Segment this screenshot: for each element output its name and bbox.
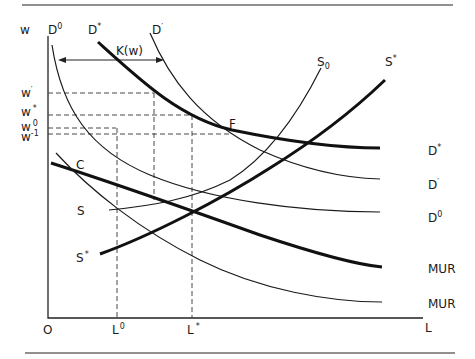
x-axis-label: L [425,321,432,335]
svg-text:w-1: w-1 [21,129,39,144]
dprime-curve [150,33,380,179]
svg-text:w*: w* [21,104,37,119]
s0-top-label: S0 [317,55,330,71]
sstar-top-label: S* [385,54,397,69]
point-c-label: C [76,158,84,172]
s-left-label: S [77,204,85,218]
svg-text:w′: w′ [21,86,33,100]
dstar-top-label: D* [88,22,101,37]
d0-right-label: D0 [428,210,442,225]
dstar-right-label: D* [428,143,441,158]
mur-thin-label: MUR [428,297,455,311]
point-f-label: F [229,117,236,131]
svg-text:L*: L* [187,322,200,337]
svg-text:L0: L0 [112,322,125,337]
dprime-top-label: D′ [152,23,163,37]
origin-label: O [43,323,52,337]
labor-labels: L0 L* [112,322,200,337]
mur-thin-curve [56,153,382,302]
k-arrow [58,57,164,63]
y-axis-label: w [20,23,30,37]
wage-labels: w′ w* w0 w-1 [21,86,39,144]
labor-market-diagram: w L O w′ w* w0 w-1 L0 L* K(w) F C D0 D* … [0,0,475,359]
dprime-right-label: D′ [428,178,439,192]
d0-top-label: D0 [48,22,62,37]
sstar-left-label: S* [76,250,89,265]
mur-thick-curve [51,163,382,267]
k-label: K(w) [116,44,143,58]
mur-thick-label: MUR [428,262,455,276]
